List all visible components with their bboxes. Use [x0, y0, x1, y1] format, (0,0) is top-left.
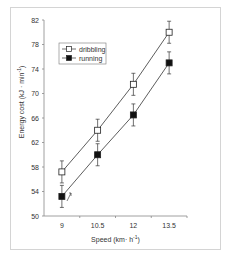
data-point-dribbling [59, 169, 65, 175]
x-tick-label: 12 [129, 222, 137, 229]
annotation-arrow-icon [67, 193, 71, 201]
y-tick-label: 66 [31, 115, 39, 122]
data-point-running [95, 152, 101, 158]
y-tick-label: 62 [31, 139, 39, 146]
legend-marker-running [67, 56, 72, 61]
y-tick-label: 78 [31, 41, 39, 48]
y-tick-label: 82 [31, 17, 39, 24]
y-tick-label: 70 [31, 90, 39, 97]
x-tick-label: 9 [60, 222, 64, 229]
y-axis-title: Energy cost (kJ · min-1) [16, 66, 26, 139]
y-tick-label: 58 [31, 164, 39, 171]
x-tick-label: 13.5 [162, 222, 176, 229]
data-point-dribbling [95, 127, 101, 133]
series-line-running [62, 63, 169, 197]
x-axis-title: Speed (km· h-1) [91, 234, 140, 244]
legend-label-running: running [79, 55, 102, 63]
y-tick-label: 50 [31, 213, 39, 220]
y-tick-label: 74 [31, 66, 39, 73]
data-point-running [130, 112, 136, 118]
data-point-dribbling [130, 81, 136, 87]
x-tick-label: 10.5 [91, 222, 105, 229]
y-tick-label: 54 [31, 188, 39, 195]
legend-marker-dribbling [67, 47, 72, 52]
line-chart: 505458626670747882910.51213.5Speed (km· … [0, 0, 231, 257]
data-point-running [59, 193, 65, 199]
data-point-running [166, 60, 172, 66]
data-point-dribbling [166, 29, 172, 35]
legend-label-dribbling: dribbling [79, 46, 106, 54]
